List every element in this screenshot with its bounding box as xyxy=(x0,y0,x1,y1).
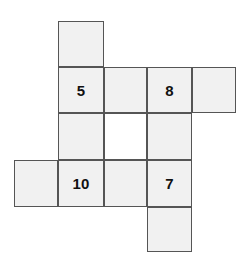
grid-cell-r3c2[interactable] xyxy=(104,113,147,160)
grid-cell-r3c1[interactable] xyxy=(58,113,104,160)
grid-cell-r2c1[interactable]: 5 xyxy=(58,67,104,113)
grid-cell-label: 8 xyxy=(165,83,174,98)
grid-cell-label: 5 xyxy=(77,83,86,98)
grid-cell-r5c3[interactable] xyxy=(147,207,192,252)
grid-cell-r2c4[interactable] xyxy=(192,67,236,113)
grid-canvas: 58107 xyxy=(0,0,248,268)
grid-cell-r3c3[interactable] xyxy=(147,113,192,160)
grid-cell-r2c2[interactable] xyxy=(104,67,147,113)
grid-cell-r1c1[interactable] xyxy=(58,21,104,67)
grid-cell-r4c3[interactable]: 7 xyxy=(147,160,192,207)
grid-cell-r2c3[interactable]: 8 xyxy=(147,67,192,113)
grid-cell-r4c1[interactable]: 10 xyxy=(58,160,104,207)
grid-cell-r4c2[interactable] xyxy=(104,160,147,207)
grid-cell-label: 7 xyxy=(165,176,174,191)
grid-cell-r4c0[interactable] xyxy=(14,160,58,207)
grid-cell-label: 10 xyxy=(72,176,89,191)
